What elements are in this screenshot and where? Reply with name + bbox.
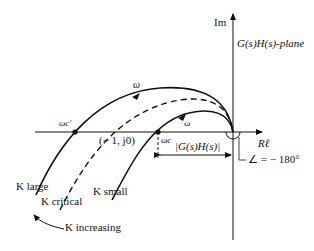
nyquist-diagram: Im G(s)H(s)-plane Rℓ ω ω ωc′ (− 1, j0) ω… (0, 0, 314, 251)
imag-axis-label: Im (214, 17, 226, 28)
curve-k-small (112, 111, 233, 200)
magnitude-label: |G(s)H(s)| (175, 141, 220, 152)
k-small-label: K small (93, 186, 128, 197)
omega-c-label: ωc (161, 136, 171, 145)
point-omega-c-prime (72, 129, 77, 134)
k-large-label: K large (16, 181, 48, 192)
real-axis-label: Rℓ (258, 138, 269, 149)
minus-one-point-label: (− 1, j0) (99, 135, 135, 146)
plane-title: G(s)H(s)-plane (237, 38, 304, 49)
k-increasing-arrow (34, 215, 64, 229)
angle-label: ∠ = − 180° (248, 154, 300, 165)
k-critical-label: K critical (41, 196, 82, 207)
omega-label-top: ω (133, 80, 140, 90)
omega-c-prime-label: ωc′ (59, 119, 71, 128)
arrow-omega-top (132, 93, 140, 100)
k-increasing-label: K increasing (65, 222, 121, 233)
omega-label-inner: ω (184, 119, 190, 128)
